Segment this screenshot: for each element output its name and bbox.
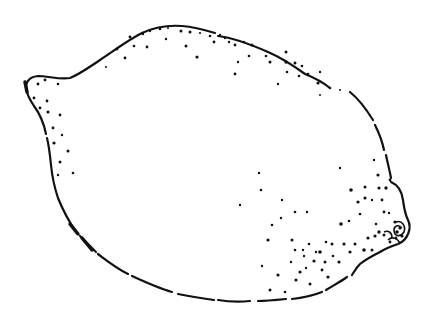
lemon-tip-cluster (384, 222, 405, 244)
lemon-drawing (0, 0, 444, 324)
lemon-outline (26, 26, 410, 302)
lemon-illustration: Lemon (0, 0, 444, 324)
